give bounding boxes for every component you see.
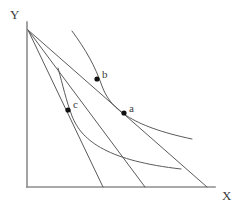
axes-group (27, 22, 215, 187)
budget-line-1 (28, 30, 103, 187)
point-b-label: b (102, 69, 108, 80)
point-c-label: c (73, 99, 78, 110)
point-b-dot (94, 76, 99, 81)
point-a-dot (121, 110, 126, 115)
point-c-dot (65, 107, 70, 112)
x-axis-label: X (222, 189, 231, 202)
figure-canvas (0, 0, 247, 209)
indifference-curve-lower (58, 68, 181, 169)
point-a-label: a (129, 103, 134, 114)
indifference-curves-group (58, 31, 192, 169)
indifference-curve-figure: Y X b a c (0, 0, 247, 209)
y-axis-label: Y (10, 8, 19, 21)
